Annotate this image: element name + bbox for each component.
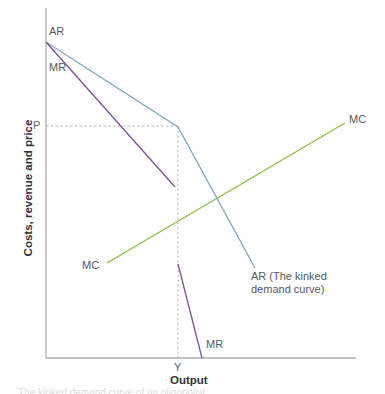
mr-axis-label: MR (49, 61, 66, 74)
mc-right-label: MC (349, 113, 366, 126)
kinked-demand-curve-figure: Costs, revenue and price Output AR MR P … (0, 0, 385, 394)
mr-bottom-label: MR (206, 338, 223, 351)
mc-curve (107, 123, 345, 263)
quantity-marker-label: Y (174, 361, 181, 374)
ar-curve (46, 42, 255, 268)
mr-curve-lower (178, 264, 202, 358)
x-axis-title: Output (170, 374, 208, 386)
ar-axis-label: AR (49, 25, 64, 38)
chart-plot-area (0, 0, 385, 394)
price-marker-label: P (33, 119, 40, 132)
ar-curve-label: AR (The kinked demand curve) (251, 270, 361, 296)
figure-caption-cropped: The kinked demand curve of an oligopolis… (18, 387, 378, 394)
y-axis-title: Costs, revenue and price (22, 108, 34, 268)
mc-left-label: MC (82, 259, 99, 272)
